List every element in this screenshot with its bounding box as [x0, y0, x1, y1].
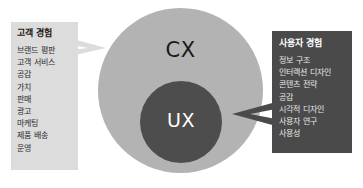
list-item: 판매 [17, 94, 78, 106]
list-item: 정보 구조 [279, 55, 352, 67]
user-experience-panel: 사용자 경험 정보 구조 인터랙션 디자인 콘텐츠 전략 공감 시각적 디자인 … [272, 31, 352, 153]
right-arrow-icon [228, 100, 276, 128]
cx-label: CX [98, 38, 263, 62]
list-item: 사용자 연구 [279, 116, 352, 128]
diagram-canvas: CX UX 고객 경험 브랜드 평판 고객 서비스 공감 가치 판매 광고 마케… [0, 0, 363, 188]
list-item: 인터랙션 디자인 [279, 67, 352, 79]
customer-experience-list: 브랜드 평판 고객 서비스 공감 가치 판매 광고 마케팅 제품 배송 운영 [17, 45, 78, 155]
customer-experience-panel: 고객 경험 브랜드 평판 고객 서비스 공감 가치 판매 광고 마케팅 제품 배… [11, 22, 78, 170]
list-item: 운영 [17, 143, 78, 155]
list-item: 공감 [279, 92, 352, 104]
user-experience-title: 사용자 경험 [279, 37, 352, 50]
list-item: 광고 [17, 106, 78, 118]
list-item: 브랜드 평판 [17, 45, 78, 57]
list-item: 제품 배송 [17, 130, 78, 142]
customer-experience-title: 고객 경험 [17, 27, 78, 40]
list-item: 사용성 [279, 128, 352, 140]
list-item: 가치 [17, 82, 78, 94]
list-item: 고객 서비스 [17, 57, 78, 69]
list-item: 마케팅 [17, 118, 78, 130]
list-item: 공감 [17, 69, 78, 81]
ux-label: UX [140, 109, 222, 131]
list-item: 시각적 디자인 [279, 104, 352, 116]
list-item: 콘텐츠 전략 [279, 79, 352, 91]
user-experience-list: 정보 구조 인터랙션 디자인 콘텐츠 전략 공감 시각적 디자인 사용자 연구 … [279, 55, 352, 140]
